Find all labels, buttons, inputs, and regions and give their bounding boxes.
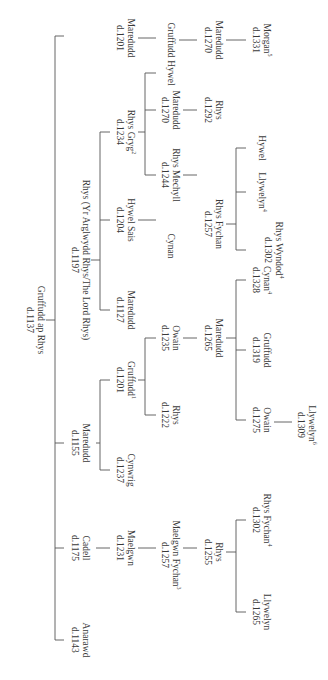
death-date: d.1231 [114, 530, 125, 566]
footnote-marker: 4 [279, 275, 285, 278]
person-name: Rhys Mechyll [170, 148, 181, 202]
footnote-marker: 6 [312, 442, 318, 445]
footnote-marker: 4 [267, 291, 273, 294]
person-name: Gruffudd ap Rhys [35, 286, 46, 354]
death-date: d.1270 [159, 90, 170, 129]
person-name: Maredudd [125, 18, 136, 57]
family-tree-diagram: Gruffudd ap Rhysd.1137Anarawdd.1143Cadel… [0, 0, 328, 680]
person-name: Rhys (Yr Arglwydd Rhys/The Lord Rhys) [80, 180, 91, 341]
person-name: Owain [261, 407, 272, 433]
person-name: Morgan5 [261, 24, 272, 57]
person-name: Rhys [213, 539, 224, 565]
person-name: Maredudd [125, 290, 136, 329]
person-node-rhys-fychan: Rhys Fychand.1257 [202, 199, 224, 249]
death-date: d.1331 [250, 24, 261, 57]
death-date: d.1237 [114, 453, 125, 486]
person-node-llywelyn-4: Llywelyn4 [256, 172, 267, 211]
person-node-maelgwn-fychan: Maelgwn Fychan3d.1257 [159, 520, 181, 589]
person-name: Llywelyn4 [256, 172, 267, 211]
person-name: Rhys Gryg2 [125, 110, 136, 154]
death-date: d.1255 [202, 539, 213, 565]
person-name: Rhys Fychan [213, 199, 224, 249]
person-name: Maelgwn Fychan3 [170, 520, 181, 589]
death-date: d.1143 [69, 623, 80, 658]
person-node-rhys-fychan-1302: Rhys Fychan4d.1302 [250, 494, 272, 547]
person-name: Rhys [213, 97, 224, 123]
person-name: Maredudd [213, 20, 224, 59]
person-name: Maredudd [170, 90, 181, 129]
death-date: d.1222 [159, 402, 170, 428]
person-node-maredudd-1270a: Mareduddd.1270 [159, 90, 181, 129]
death-date: d.1265 [202, 318, 213, 357]
person-node-rhys-lord: Rhys (Yr Arglwydd Rhys/The Lord Rhys)d.1… [69, 180, 91, 341]
person-node-maredudd-1270b: Mareduddd.1270 [202, 20, 224, 59]
person-name: Cadell [80, 535, 91, 561]
person-node-anarawd: Anarawdd.1143 [69, 623, 91, 658]
death-date: d.1302 [262, 222, 273, 279]
person-node-rhys-gryg: Rhys Gryg2d.1234 [114, 110, 136, 154]
death-date: d.1137 [24, 286, 35, 354]
death-date: d.1275 [250, 407, 261, 433]
person-name: Gruffudd [165, 22, 176, 57]
person-node-rhys-mechyll: Rhys Mechylld.1244 [159, 148, 181, 202]
person-name: Rhys [170, 402, 181, 428]
death-date: d.1201 [114, 18, 125, 57]
death-date: d.1270 [202, 20, 213, 59]
person-name: Llywelyn6 [306, 405, 317, 444]
person-node-cynwrig: Cynwrigd.1237 [114, 453, 136, 486]
person-name: Maredudd [80, 423, 91, 462]
person-node-owain-1235: Owaind.1235 [159, 325, 181, 351]
person-name: Llywelyn [261, 594, 272, 630]
person-node-gruffudd-1201: Gruffudd1d.1201 [114, 361, 136, 399]
person-node-rhys-wyndod: Rhys Wyndod4d.1302 [262, 222, 284, 279]
death-date: d.1319 [250, 332, 261, 367]
death-date: d.1302 [250, 494, 261, 547]
person-node-maredudd-1201: Mareduddd.1201 [114, 18, 136, 57]
person-node-gruffudd-1319: Gruffuddd.1319 [250, 332, 272, 367]
death-date: d.1204 [114, 198, 125, 242]
death-date: d.1234 [114, 110, 125, 154]
death-date: d.1235 [159, 325, 170, 351]
death-date: d.1127 [114, 290, 125, 329]
death-date: d.1265 [250, 594, 261, 630]
person-node-rhys-1292: Rhysd.1292 [202, 97, 224, 123]
footnote-marker: 5 [267, 53, 273, 56]
footnote-marker: 3 [176, 587, 182, 590]
person-name: Hywel [256, 135, 267, 160]
person-node-maelgwn-1231: Maelgwnd.1231 [114, 530, 136, 566]
person-name: Owain [170, 325, 181, 351]
person-node-maredudd-1265: Mareduddd.1265 [202, 318, 224, 357]
footnote-marker: 1 [131, 396, 137, 399]
footnote-marker: 4 [262, 209, 268, 212]
person-node-maredudd-1127: Mareduddd.1127 [114, 290, 136, 329]
person-node-hywel-b: Hywel [256, 135, 267, 160]
person-node-maredudd-1155: Mareduddd.1155 [69, 423, 91, 462]
death-date: d.1328 [250, 266, 261, 294]
person-node-morgan: Morgan5d.1331 [250, 24, 272, 57]
person-node-cadell: Cadelld.1175 [69, 535, 91, 561]
footnote-marker: 2 [131, 151, 137, 154]
person-node-rhys-1255: Rhysd.1255 [202, 539, 224, 565]
person-name: Hywel [165, 60, 176, 85]
death-date: d.1244 [159, 148, 170, 202]
death-date: d.1155 [69, 423, 80, 462]
death-date: d.1175 [69, 535, 80, 561]
person-node-llywelyn-1265: Llywelynd.1265 [250, 594, 272, 630]
death-date: d.1257 [202, 199, 213, 249]
person-name: Rhys Fychan4 [261, 494, 272, 547]
person-node-gruffudd-ap-rhys: Gruffudd ap Rhysd.1137 [24, 286, 46, 354]
person-node-hywel-sais: Hywel Saisd.1204 [114, 198, 136, 242]
person-name: Maredudd [213, 318, 224, 357]
death-date: d.1201 [114, 361, 125, 399]
person-node-rhys-1222: Rhysd.1222 [159, 402, 181, 428]
person-node-llywelyn-1309: Llywelyn6d.1309 [295, 405, 317, 444]
death-date: d.1292 [202, 97, 213, 123]
person-name: Maelgwn [125, 530, 136, 566]
person-node-hywel-a: Hywel [165, 60, 176, 85]
person-name: Cynwrig [125, 453, 136, 486]
person-name: Hywel Sais [125, 198, 136, 242]
death-date: d.1309 [295, 405, 306, 444]
person-node-cynan: Cynan [165, 234, 176, 259]
person-node-owain-1275: Owaind.1275 [250, 407, 272, 433]
person-name: Gruffudd [261, 332, 272, 367]
